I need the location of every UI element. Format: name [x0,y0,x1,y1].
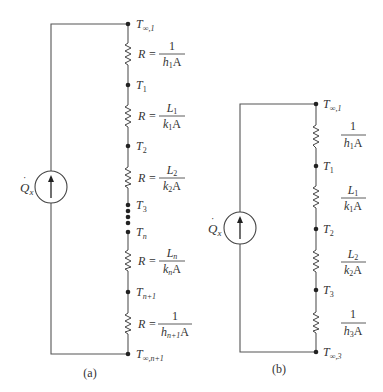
node-label: T∞,3 [323,345,341,361]
node-b-t1 [314,164,319,169]
formula-denominator: hn+1A [161,325,189,340]
node-label: T1 [136,78,147,94]
formula-denominator: k1A [163,117,181,132]
formula-a-2: R = L1 k1A [137,101,185,132]
formula-denominator: k1A [344,199,362,214]
formula-prefix: R = [137,109,156,123]
formula-prefix: R = [137,171,156,185]
heat-source-b [224,212,256,244]
formula-numerator: 1 [169,39,175,53]
node-a-t3 [126,203,131,208]
node-b-tinf1 [314,102,319,107]
formula-b-4: 1 h3A [341,307,366,339]
resistor-a-3 [125,167,131,188]
source-label-a: Qx [20,180,33,197]
node-b-tinf3 [314,350,319,355]
node-label: Tn+1 [136,285,156,301]
resistor-b-2 [313,186,319,208]
formula-prefix: R = [137,254,156,268]
resistor-a-2 [125,105,131,127]
formula-denominator: k2A [344,263,362,278]
ellipsis-dot [126,209,131,214]
formula-numerator: Ln [166,246,178,261]
node-label: T2 [323,222,334,238]
formula-a-1: R = 1 h1A [137,39,185,70]
formula-a-n1: R = 1 hn+1A [137,309,192,340]
source-label-b: Qx [208,221,221,238]
dot-accent: · [23,172,26,183]
formula-denominator: knA [163,262,181,277]
resistor-b-1 [313,125,319,148]
node-label: T3 [323,283,334,299]
formula-prefix: R = [137,317,156,331]
node-label: T1 [323,159,334,175]
thermal-circuit-diagram: Qx · T∞,1 T1 T2 T3 Tn Tn+1 T∞,n+1 [0,0,383,392]
formula-a-3: R = L2 k2A [137,163,185,194]
formula-numerator: 1 [172,309,178,323]
formula-a-n: R = Ln knA [137,246,185,277]
wire-b-bottom [240,244,316,352]
node-a-tn [126,230,131,235]
resistor-b-3 [313,250,319,272]
node-label: T2 [136,139,147,155]
node-b-t3 [314,288,319,293]
caption-a: (a) [83,366,96,380]
node-label: T∞,n+1 [136,347,164,363]
node-a-tn1 [126,290,131,295]
formula-prefix: R = [137,47,156,61]
resistor-a-n1 [125,313,131,334]
formula-numerator: 1 [350,119,356,133]
ellipsis-dot [126,221,131,226]
resistor-b-4 [313,312,319,333]
formula-numerator: L2 [347,247,359,262]
wire-b-top [240,104,316,212]
node-b-t2 [314,227,319,232]
node-label: T∞,1 [323,97,341,113]
formula-numerator: L1 [347,183,359,198]
circuit-a: Qx · T∞,1 T1 T2 T3 Tn Tn+1 T∞,n+1 [20,17,192,380]
node-a-tinf1 [126,22,131,27]
dot-accent: · [211,213,214,224]
wire-a-top [51,24,128,171]
formula-numerator: L1 [166,101,178,116]
formula-b-1: 1 h1A [341,119,366,151]
formula-numerator: 1 [350,307,356,321]
node-a-t1 [126,83,131,88]
node-label: T∞,1 [136,17,154,33]
formula-b-3: L2 k2A [341,247,366,278]
formula-denominator: h1A [344,136,363,151]
wire-a-bottom [51,203,128,354]
formula-denominator: k2A [163,179,181,194]
caption-b: (b) [272,362,286,376]
formula-numerator: L2 [166,163,178,178]
node-a-t2 [126,144,131,149]
formula-denominator: h1A [163,55,182,70]
formula-denominator: h3A [344,324,363,339]
node-label: Tn [136,225,147,241]
resistor-a-1 [125,43,131,65]
circuit-b: Qx · T∞,1 T1 T2 T3 T∞,3 1 h1A L1 k1A [208,97,366,376]
resistor-a-n [125,250,131,271]
node-label: T3 [136,198,147,214]
ellipsis-dot [126,215,131,220]
node-a-tinfn1 [126,352,131,357]
formula-b-2: L1 k1A [341,183,366,214]
heat-source-a [35,171,67,203]
